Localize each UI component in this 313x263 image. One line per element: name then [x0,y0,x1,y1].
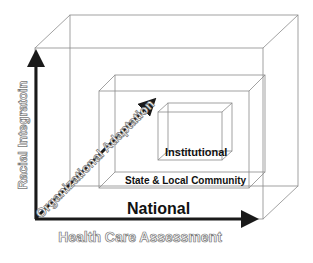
level-label-national: National [127,200,190,217]
level-label-state-local: State & Local Community [125,175,247,186]
horizontal-axis-label: Health Care Assessment [58,229,222,245]
level-label-institutional: Institutional [165,146,227,158]
nested-levels-diagram: Racial Integratoin Health Care Assessmen… [0,0,313,263]
vertical-axis-label: Racial Integratoin [15,80,30,189]
